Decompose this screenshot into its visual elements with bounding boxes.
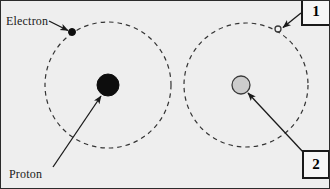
electron-leader-arrow — [49, 21, 68, 31]
proton-label: Proton — [9, 168, 42, 180]
callout-1-leader-arrow — [283, 13, 301, 28]
left-nucleus-proton — [97, 74, 119, 96]
right-atom-group — [184, 23, 308, 147]
right-electron-dot — [275, 26, 281, 32]
left-atom-group — [45, 22, 171, 148]
callout-2-leader-arrow — [248, 93, 304, 153]
right-nucleus-proton — [232, 76, 250, 94]
callout-box-1: 1 — [301, 0, 330, 26]
atom-diagram-figure: Electron Proton 1 2 — [0, 0, 330, 189]
electron-label: Electron — [6, 15, 48, 27]
diagram-canvas — [1, 1, 330, 189]
left-electron-dot — [69, 29, 76, 36]
proton-leader-arrow — [53, 96, 101, 167]
callout-box-2: 2 — [302, 150, 330, 179]
